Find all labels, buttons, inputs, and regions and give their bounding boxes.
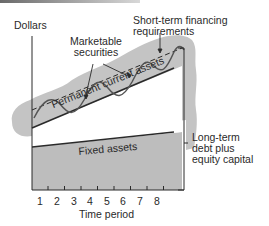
x-tick-label: 4 [85, 195, 95, 207]
x-tick-label: 5 [102, 195, 112, 207]
long-term-financing-label: Long-term debt plus equity capital [192, 132, 253, 165]
x-tick-label: 6 [118, 195, 128, 207]
x-tick-label: 2 [52, 195, 62, 207]
x-tick-label: 3 [69, 195, 79, 207]
short-term-financing-label: Short-term financing requirements [133, 15, 228, 37]
x-axis-label: Time period [79, 209, 134, 220]
x-tick-label: 8 [152, 195, 162, 207]
x-tick-label: 1 [35, 195, 45, 207]
marketable-securities-line2: securities [70, 47, 122, 58]
x-tick-label: 7 [135, 195, 145, 207]
long-term-line3: equity capital [192, 154, 253, 165]
y-axis-label: Dollars [14, 20, 47, 31]
short-term-line2: requirements [133, 26, 228, 37]
marketable-securities-label: Marketable securities [70, 36, 122, 58]
